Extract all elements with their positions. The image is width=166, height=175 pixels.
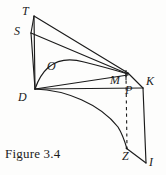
vertex-label-O: O bbox=[47, 60, 56, 72]
segment-S-M bbox=[31, 33, 128, 74]
figure-3-4: T S O D M P K Z I Figure 3.4 bbox=[0, 0, 166, 175]
curve-D-Z bbox=[35, 89, 127, 149]
vertex-label-I: I bbox=[149, 156, 153, 168]
vertex-label-T: T bbox=[22, 5, 29, 17]
vertex-label-D: D bbox=[18, 91, 27, 103]
vertex-label-P: P bbox=[125, 84, 132, 96]
vertex-label-S: S bbox=[14, 25, 20, 37]
segment-K-I bbox=[143, 88, 146, 163]
figure-caption: Figure 3.4 bbox=[5, 146, 60, 162]
vertex-label-Z: Z bbox=[122, 150, 129, 162]
vertex-label-K: K bbox=[146, 75, 154, 87]
segment-Z-I bbox=[126, 148, 146, 163]
vertex-label-M: M bbox=[110, 74, 120, 86]
